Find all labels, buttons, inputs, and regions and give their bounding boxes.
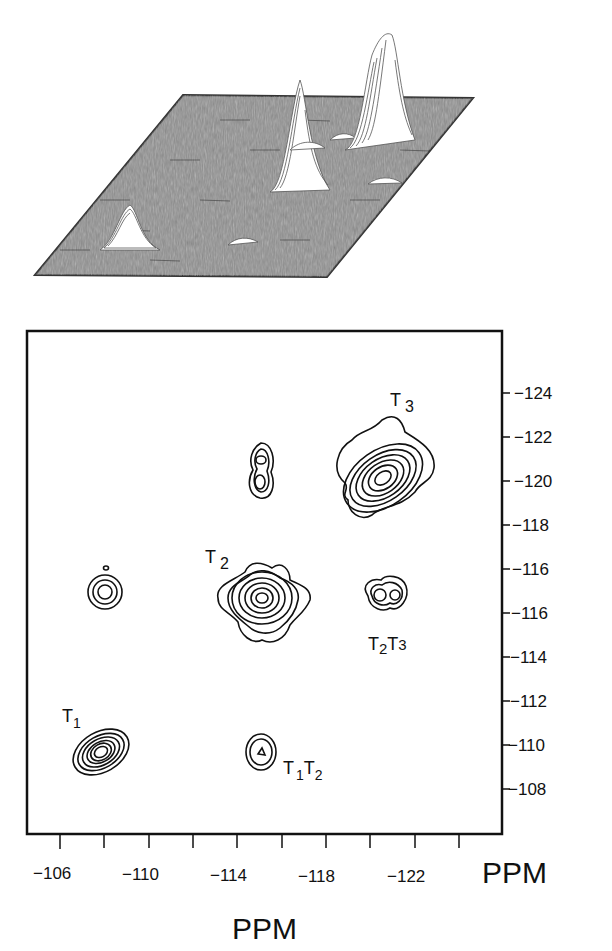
y-tick-label: −124 (514, 384, 552, 403)
contour-plot: −124 −122 −120 −118 −116 −116 −114 −112 … (0, 320, 612, 951)
contour-peak-upper-cross (249, 443, 273, 498)
y-tick-label: −108 (508, 780, 546, 799)
x-axis-labels: −106 −110 −114 −118 −122 (33, 864, 425, 886)
x-tick-label: −110 (122, 865, 159, 884)
contour-peak-t3 (331, 417, 435, 526)
x-tick-label: −122 (387, 867, 425, 886)
peak-label-t1t2: T1T2 (283, 758, 323, 783)
peak-label-t2t3: T2T3 (368, 634, 407, 657)
x-tick-label: −114 (210, 866, 247, 885)
contour-peak-t2 (218, 563, 311, 642)
contour-peak-t2t3 (365, 576, 407, 609)
x-tick-label: −106 (33, 864, 71, 883)
peak-label-t2: T2 (205, 547, 229, 572)
surface-plot (0, 0, 612, 300)
contour-peak-left-mid (88, 566, 122, 609)
y-tick-label: −110 (508, 736, 545, 755)
y-tick-label: −118 (512, 516, 549, 535)
y-tick-label: −116 (512, 560, 549, 579)
y-tick-label: −112 (510, 692, 547, 711)
x-axis-ticks (60, 834, 459, 849)
x-axis-title: PPM (232, 912, 297, 945)
y-axis-labels: −124 −122 −120 −118 −116 −116 −114 −112 … (508, 384, 552, 799)
peak-label-t3: T3 (390, 390, 414, 415)
y-tick-label: −122 (514, 428, 552, 447)
contour-peak-t1t2 (246, 734, 276, 770)
x-axis-unit-label: PPM (482, 856, 547, 889)
y-tick-label: −116 (511, 604, 548, 623)
y-tick-label: −114 (510, 648, 547, 667)
peak-label-t1: T1 (62, 706, 81, 731)
y-tick-label: −120 (514, 472, 552, 491)
x-tick-label: −118 (298, 867, 335, 886)
